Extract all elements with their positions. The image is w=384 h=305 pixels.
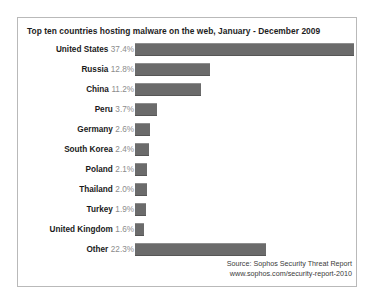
bar-category-label: South Korea xyxy=(64,145,113,154)
bar-category-label: Other xyxy=(86,245,108,254)
bar-category-label: Germany xyxy=(77,125,113,134)
bar-label: Germany2.6% xyxy=(18,123,134,136)
bar-row: Poland2.1% xyxy=(18,163,356,183)
bar-value-label: 2.0% xyxy=(115,185,134,194)
bar-category-label: United States xyxy=(56,45,108,54)
source-line-url: www.sophos.com/security-report-2010 xyxy=(227,269,352,279)
bar-fill xyxy=(135,223,144,236)
bar-row: Turkey1.9% xyxy=(18,203,356,223)
bar-fill xyxy=(135,123,150,136)
bar-fill xyxy=(135,203,146,216)
bar-track xyxy=(135,83,354,96)
bar-track xyxy=(135,203,354,216)
bar-track xyxy=(135,143,354,156)
bar-track xyxy=(135,43,354,56)
bar-label: Thailand2.0% xyxy=(18,183,134,196)
bar-value-label: 11.2% xyxy=(111,85,134,94)
bar-track xyxy=(135,63,354,76)
bar-row: Peru3.7% xyxy=(18,103,356,123)
bar-value-label: 12.8% xyxy=(111,65,134,74)
bar-value-label: 1.9% xyxy=(115,205,134,214)
bar-row: China11.2% xyxy=(18,83,356,103)
bar-value-label: 37.4% xyxy=(111,45,134,54)
bar-label: Poland2.1% xyxy=(18,163,134,176)
bar-value-label: 1.6% xyxy=(115,225,134,234)
chart-panel: Top ten countries hosting malware on the… xyxy=(17,17,357,287)
bar-fill xyxy=(135,243,266,256)
bar-fill xyxy=(135,143,149,156)
bar-value-label: 2.1% xyxy=(115,165,134,174)
bar-category-label: United Kingdom xyxy=(50,225,113,234)
bar-value-label: 2.4% xyxy=(115,145,134,154)
bar-row: Russia12.8% xyxy=(18,63,356,83)
bar-fill xyxy=(135,83,201,96)
bar-row: United States37.4% xyxy=(18,43,356,63)
bar-value-label: 2.6% xyxy=(115,125,134,134)
bar-label: Peru3.7% xyxy=(18,103,134,116)
bar-fill xyxy=(135,63,210,76)
bar-track xyxy=(135,243,354,256)
bar-label: Russia12.8% xyxy=(18,63,134,76)
bar-value-label: 22.3% xyxy=(111,245,134,254)
chart-title: Top ten countries hosting malware on the… xyxy=(27,26,320,36)
source-line-publication: Source: Sophos Security Threat Report xyxy=(227,259,352,269)
bar-fill xyxy=(135,163,147,176)
bar-category-label: Thailand xyxy=(79,185,113,194)
bar-category-label: China xyxy=(86,85,109,94)
bar-row: Thailand2.0% xyxy=(18,183,356,203)
bar-category-label: Peru xyxy=(95,105,113,114)
bar-category-label: Russia xyxy=(81,65,108,74)
bar-label: China11.2% xyxy=(18,83,134,96)
bar-label: Other22.3% xyxy=(18,243,134,256)
bar-track xyxy=(135,183,354,196)
bar-label: Turkey1.9% xyxy=(18,203,134,216)
bar-track xyxy=(135,223,354,236)
bar-track xyxy=(135,163,354,176)
bar-fill xyxy=(135,183,147,196)
bar-fill xyxy=(135,103,157,116)
bar-value-label: 3.7% xyxy=(115,105,134,114)
bar-track xyxy=(135,123,354,136)
bar-label: United States37.4% xyxy=(18,43,134,56)
bar-label: South Korea2.4% xyxy=(18,143,134,156)
source-attribution: Source: Sophos Security Threat Report ww… xyxy=(227,259,352,278)
bar-category-label: Poland xyxy=(86,165,113,174)
bar-row: United Kingdom1.6% xyxy=(18,223,356,243)
bar-fill xyxy=(135,43,354,56)
bar-row: South Korea2.4% xyxy=(18,143,356,163)
bar-category-label: Turkey xyxy=(87,205,113,214)
bar-chart-plot-area: United States37.4%Russia12.8%China11.2%P… xyxy=(18,43,356,263)
bar-track xyxy=(135,103,354,116)
bar-label: United Kingdom1.6% xyxy=(18,223,134,236)
bar-row: Germany2.6% xyxy=(18,123,356,143)
